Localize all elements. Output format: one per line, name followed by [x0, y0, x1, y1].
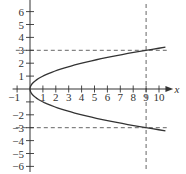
x-tick-label: 1 [40, 91, 46, 103]
y-tick-label: 2 [19, 57, 25, 69]
y-tick-label: 5 [19, 19, 25, 31]
x-tick-label: −1 [8, 91, 20, 103]
y-tick-label: −4 [12, 135, 24, 147]
y-tick-label: 6 [19, 6, 25, 18]
axis-ticks [17, 0, 159, 166]
parabola-chart: −112345678910654321−2−3−4−5−6x [0, 0, 186, 174]
x-axis-label: x [173, 83, 179, 95]
reference-lines [16, 4, 167, 172]
y-tick-label: −5 [12, 148, 24, 160]
x-tick-label: 6 [105, 91, 111, 103]
x-axis-arrow-icon [165, 86, 173, 92]
x-tick-label: 10 [154, 91, 166, 103]
y-tick-label: −2 [12, 109, 24, 121]
x-tick-label: 4 [79, 91, 85, 103]
x-tick-label: 5 [92, 91, 98, 103]
x-tick-label: 7 [118, 91, 124, 103]
x-tick-label: 8 [130, 91, 136, 103]
x-tick-label: 3 [66, 91, 72, 103]
y-tick-label: −6 [12, 160, 24, 172]
y-tick-label: 3 [19, 44, 25, 56]
x-tick-label: 9 [143, 91, 149, 103]
y-tick-label: −3 [12, 122, 24, 134]
axes [13, 0, 174, 172]
y-tick-label: 4 [19, 31, 25, 43]
x-tick-label: 2 [53, 91, 59, 103]
y-tick-label: 1 [19, 70, 25, 82]
